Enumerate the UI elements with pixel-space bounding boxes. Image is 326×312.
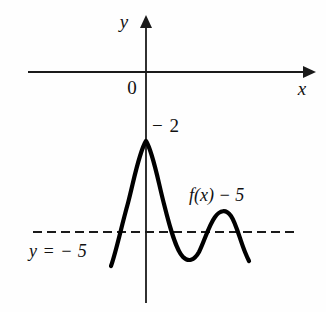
graph-canvas: y x 0 − 2 f(x) − 5 y = − 5 [0,0,326,312]
figure-container: y x 0 − 2 f(x) − 5 y = − 5 [0,0,326,312]
x-axis [28,66,316,78]
maximum-value-label: − 2 [152,115,180,136]
y-axis-arrow-icon [140,15,152,28]
origin-label: 0 [127,77,137,98]
asymptote-label: y = − 5 [27,241,87,261]
x-axis-arrow-icon [303,66,316,78]
y-axis [140,15,152,303]
curve-label: f(x) − 5 [189,185,244,206]
y-axis-label: y [118,11,129,32]
x-axis-label: x [297,78,307,99]
